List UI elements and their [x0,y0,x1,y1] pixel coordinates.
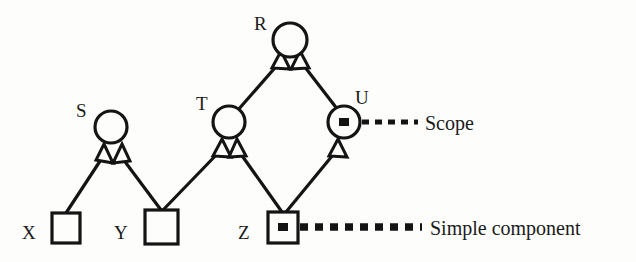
arrowhead-z-to-u [329,139,347,157]
node-shape-s[interactable] [95,111,127,143]
edge-z-to-t [238,150,282,212]
node-label-group: R S T U X Y Z [22,13,369,243]
node-label-y: Y [114,222,128,243]
node-shape-x[interactable] [52,213,80,243]
arrowhead-y-to-s [113,144,130,163]
component-marker-u [339,118,349,126]
arrowhead-y-to-t [213,139,231,157]
component-marker-z [278,223,288,231]
node-label-z: Z [238,222,250,243]
node-shape-r[interactable] [273,23,307,57]
component-scope-diagram: R S T U X Y Z Scope Simple component [0,0,636,262]
edge-z-to-u [286,150,337,212]
edge-x-to-s [66,155,104,213]
edge-y-to-s [120,155,161,210]
annotation-label-group: Scope Simple component [425,112,581,240]
node-shape-t[interactable] [213,106,245,138]
diagram-canvas: R S T U X Y Z Scope Simple component [0,0,636,262]
node-label-t: T [196,93,208,114]
node-shape-group [52,23,360,244]
node-label-s: S [76,100,87,121]
node-label-x: X [22,222,36,243]
node-label-u: U [355,87,369,108]
annotation-label-scope: Scope [425,112,474,135]
edge-y-to-t [163,150,221,210]
arrowhead-x-to-s [96,144,113,163]
node-shape-y[interactable] [145,210,178,244]
annotation-label-simple-component: Simple component [430,217,581,240]
arrowhead-z-to-t [229,139,246,157]
node-label-r: R [254,13,267,34]
